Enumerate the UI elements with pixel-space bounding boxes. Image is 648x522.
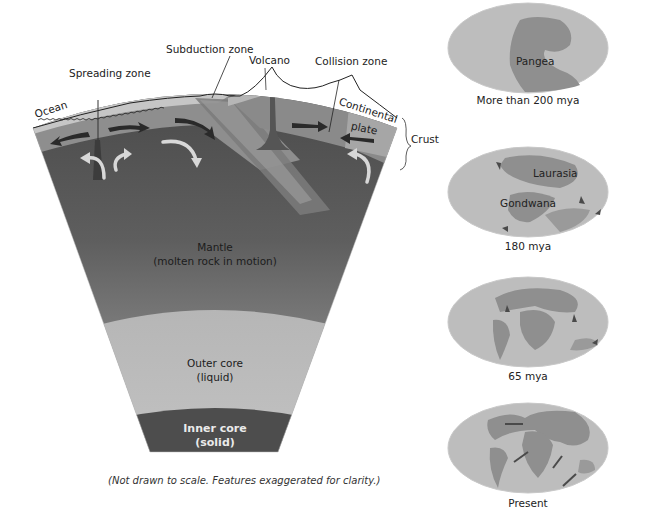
outer-core-label-line1: Outer core — [165, 356, 265, 370]
crust-label: Crust — [411, 133, 439, 145]
laurasia-label: Laurasia — [533, 167, 578, 179]
crust-bracket — [400, 118, 411, 170]
gondwana-label: Gondwana — [500, 197, 556, 209]
pangea-label: Pangea — [516, 55, 555, 67]
inner-core-label-line2: (solid) — [165, 436, 265, 450]
subduction-callout-line — [212, 56, 230, 98]
outer-core-label-line2: (liquid) — [165, 370, 265, 384]
mantle-label-line1: Mantle — [140, 240, 290, 254]
collision-zone-label: Collision zone — [315, 55, 387, 67]
volcano-label: Volcano — [249, 54, 290, 66]
globe-caption-180mya: 180 mya — [448, 240, 608, 252]
inner-core-label-line1: Inner core — [165, 422, 265, 436]
globe-180mya — [448, 147, 608, 237]
globe-caption-65mya: 65 mya — [448, 370, 608, 382]
globe-caption-present: Present — [448, 497, 608, 509]
globe-pangea — [448, 3, 608, 93]
globe-caption-200mya: More than 200 mya — [448, 94, 608, 106]
inner-core-label: Inner core (solid) — [165, 422, 265, 450]
subduction-zone-label: Subduction zone — [166, 43, 254, 55]
globe-65mya — [448, 277, 608, 367]
outer-core-label: Outer core (liquid) — [165, 356, 265, 384]
globe-present — [448, 403, 608, 493]
mantle-label-line2: (molten rock in motion) — [140, 254, 290, 268]
mantle-label: Mantle (molten rock in motion) — [140, 240, 290, 268]
spreading-zone-label: Spreading zone — [69, 67, 151, 79]
scale-caption: (Not drawn to scale. Features exaggerate… — [108, 475, 380, 486]
